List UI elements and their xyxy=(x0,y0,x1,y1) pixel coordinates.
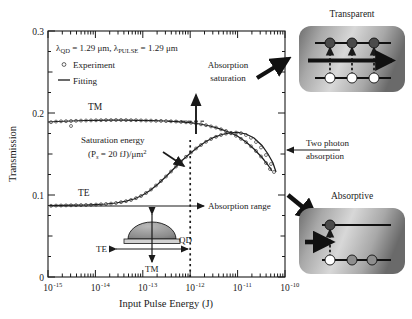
svg-text:10: 10 xyxy=(185,283,195,293)
absorption-saturation-line1: Absorption xyxy=(208,60,249,70)
svg-text:-12: -12 xyxy=(196,281,205,288)
svg-text:-14: -14 xyxy=(101,281,110,288)
y-axis-title: Transmission xyxy=(7,125,18,182)
label-inset-te: TE xyxy=(96,244,107,254)
label-tm-curve: TM xyxy=(88,102,103,112)
y-tick-0: 0 xyxy=(39,273,44,283)
electron-filled-1 xyxy=(325,38,335,48)
absorptive-panel-title: Absorptive xyxy=(331,191,373,201)
y-tick-3: 0.3 xyxy=(32,27,44,37)
svg-text:10: 10 xyxy=(138,283,148,293)
svg-text:10: 10 xyxy=(280,283,290,293)
two-photon-line1: Two photon xyxy=(306,138,350,148)
label-te-curve: TE xyxy=(78,188,90,198)
absorption-saturation-line2: saturation xyxy=(210,73,246,83)
svg-text:-11: -11 xyxy=(243,281,252,288)
label-absorption-range: Absorption range xyxy=(208,201,271,211)
electron-excited xyxy=(325,220,335,230)
label-inset-tm: TM xyxy=(145,264,159,274)
svg-text:-13: -13 xyxy=(148,281,157,288)
hole-empty-3 xyxy=(369,73,379,83)
transparent-panel-title: Transparent xyxy=(329,9,374,19)
y-tick-2: 0.2 xyxy=(32,109,44,119)
ground-state-1 xyxy=(347,255,357,265)
svg-text:10: 10 xyxy=(91,283,101,293)
figure-svg: 0 0.1 0.2 0.3 Transmission xyxy=(0,0,412,319)
hole-created xyxy=(325,255,335,265)
label-qd: QD xyxy=(179,235,192,245)
hole-empty-1 xyxy=(325,73,335,83)
svg-text:10: 10 xyxy=(233,283,243,293)
svg-text:-15: -15 xyxy=(54,281,63,288)
figure-container: 0 0.1 0.2 0.3 Transmission xyxy=(0,0,412,319)
legend-conditions: λQD = 1.29 μm, λPULSE = 1.29 μm xyxy=(56,43,178,54)
svg-text:λQD = 1.29 μm, λPULSE = 1.29 μ: λQD = 1.29 μm, λPULSE = 1.29 μm xyxy=(56,43,178,54)
electron-filled-2 xyxy=(347,38,357,48)
hole-empty-2 xyxy=(347,73,357,83)
svg-text:10: 10 xyxy=(43,283,53,293)
saturation-energy-line1: Saturation energy xyxy=(81,135,145,145)
legend-label-experiment: Experiment xyxy=(73,60,115,70)
ground-state-2 xyxy=(367,255,377,265)
svg-text:-10: -10 xyxy=(291,281,300,288)
electron-filled-3 xyxy=(369,38,379,48)
legend-label-fitting: Fitting xyxy=(73,76,98,86)
y-tick-1: 0.1 xyxy=(32,191,44,201)
x-axis-title: Input Pulse Energy (J) xyxy=(119,298,214,310)
